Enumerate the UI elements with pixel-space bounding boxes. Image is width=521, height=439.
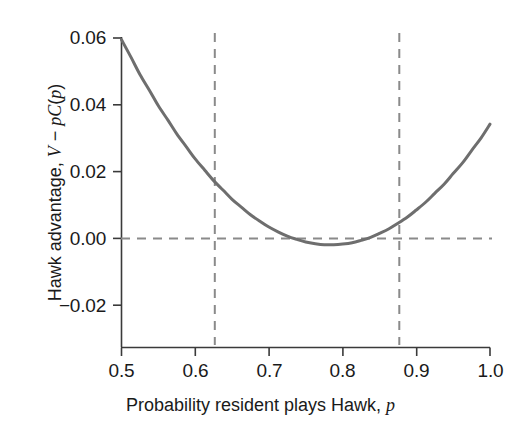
x-axis-title-text: Probability resident plays Hawk, xyxy=(126,395,386,415)
x-axis-title-symbol-p: p xyxy=(386,395,395,415)
chart-figure: 0.06 0.04 0.02 0.00 −0.02 0.5 0.6 0.7 0.… xyxy=(0,0,521,439)
y-tick-marks xyxy=(113,38,122,305)
x-axis-title: Probability resident plays Hawk, p xyxy=(0,395,521,416)
x-tick-label-0.9: 0.9 xyxy=(386,360,447,382)
x-tick-label-0.5: 0.5 xyxy=(91,360,152,382)
x-tick-marks xyxy=(122,348,491,357)
x-tick-label-0.7: 0.7 xyxy=(239,360,300,382)
x-tick-label-0.6: 0.6 xyxy=(165,360,226,382)
y-axis-symbol-V: V xyxy=(45,146,65,157)
y-axis-symbol-close-paren: ) xyxy=(45,84,65,90)
hawk-advantage-curve xyxy=(122,40,491,245)
y-axis-symbol-C: C xyxy=(45,105,65,117)
y-axis-title-text: Hawk advantage, xyxy=(45,157,65,301)
x-tick-label-1.0: 1.0 xyxy=(460,360,521,382)
y-axis-symbol-minus: − xyxy=(45,126,65,147)
y-axis-symbol-p2: p xyxy=(45,90,65,99)
y-axis-symbol-p1: p xyxy=(45,117,65,126)
y-axis-symbol-open-paren: ( xyxy=(45,99,65,105)
x-tick-label-0.8: 0.8 xyxy=(312,360,373,382)
y-axis-title: Hawk advantage, V − pC(p) xyxy=(45,28,66,358)
